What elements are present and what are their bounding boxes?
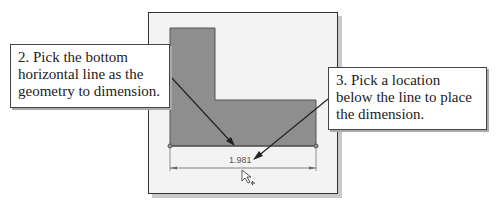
callout-step-2: 2. Pick the bottom horizontal line as th… [10,44,170,108]
dimension-value[interactable]: 1.981 [229,155,252,165]
dimension-arrow-left [170,167,177,170]
endpoint-right[interactable] [314,144,318,148]
dimension-arrow-right [309,167,316,170]
endpoint-left[interactable] [168,144,172,148]
smart-dimension-cursor-icon [242,170,255,185]
l-shaped-profile[interactable] [170,28,316,146]
leader-arrowhead-3 [253,151,263,160]
callout-step-3: 3. Pick a location below the line to pla… [328,67,487,130]
